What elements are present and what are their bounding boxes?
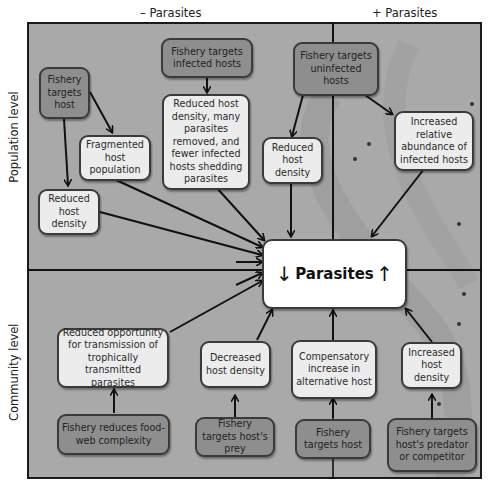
box-fishery-targets-uninfected-hosts: Fishery targets uninfected hosts — [293, 42, 379, 96]
box-label: Increased host density — [406, 347, 457, 385]
box-reduced-opportunity-transmission: Reduced opportunity for transmission of … — [57, 328, 169, 388]
up-arrow-icon: ↑ — [376, 268, 393, 281]
box-fishery-targets-host-community: Fishery targets host — [295, 419, 371, 459]
box-fishery-reduces-foodweb: Fishery reduces food-web complexity — [57, 414, 170, 455]
box-label: Fishery reduces food-web complexity — [62, 422, 165, 447]
box-reduced-host-density-left: Reduced host density — [38, 189, 100, 235]
box-label: Reduced host density — [267, 142, 318, 180]
box-parasites-center: ↓ Parasites ↑ — [262, 239, 407, 309]
box-label: Reduced opportunity for transmission of … — [62, 327, 164, 390]
center-label: Parasites — [295, 268, 374, 281]
box-increased-relative-abundance: Increased relative abundance of infected… — [394, 111, 474, 171]
column-label-minus-parasites: – Parasites — [140, 6, 201, 20]
box-label: Fishery targets uninfected hosts — [298, 50, 374, 88]
box-reduced-density-many-removed: Reduced host density, many parasites rem… — [162, 94, 250, 190]
diagram-frame — [27, 22, 482, 479]
box-label: Fishery targets infected hosts — [166, 46, 248, 71]
box-increased-host-density: Increased host density — [401, 342, 462, 389]
row-label-population-level: Population level — [7, 89, 21, 185]
box-fishery-targets-predator-competitor: Fishery targets host's predator or compe… — [387, 418, 477, 472]
background-texture — [29, 24, 482, 479]
box-decreased-host-density: Decreased host density — [200, 341, 271, 388]
box-label: Compensatory increase in alternative hos… — [296, 351, 372, 389]
box-fishery-targets-host: Fishery targets host — [39, 67, 90, 119]
box-label: Fragmented host population — [84, 139, 146, 177]
box-label: Fishery targets host — [44, 74, 85, 112]
column-label-plus-parasites: + Parasites — [372, 6, 437, 20]
row-label-community-level: Community level — [7, 325, 21, 421]
box-fishery-targets-hosts-prey: Fishery targets host's prey — [195, 417, 275, 457]
box-compensatory-increase: Compensatory increase in alternative hos… — [291, 340, 377, 399]
box-fishery-targets-infected-hosts: Fishery targets infected hosts — [161, 38, 253, 78]
down-arrow-icon: ↓ — [276, 268, 293, 281]
box-label: Fishery targets host's predator or compe… — [392, 426, 472, 464]
box-fragmented-host-population: Fragmented host population — [79, 135, 151, 181]
box-label: Increased relative abundance of infected… — [399, 116, 469, 166]
box-label: Reduced host density, many parasites rem… — [167, 98, 245, 186]
box-label: Fishery targets host's prey — [200, 418, 270, 456]
box-label: Decreased host density — [205, 352, 266, 377]
box-label: Reduced host density — [43, 193, 95, 231]
box-reduced-host-density-mid: Reduced host density — [262, 137, 323, 184]
box-label: Fishery targets host — [300, 427, 366, 452]
